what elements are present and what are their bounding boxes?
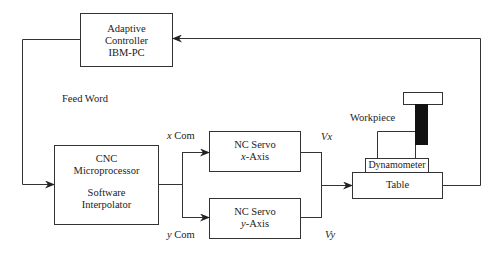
servo-x-line-1: NC Servo [209, 139, 301, 151]
adaptive-line-2: Controller [80, 35, 173, 47]
adaptive-line-3: IBM-PC [80, 47, 173, 59]
cnc-line-3: Software [54, 187, 159, 199]
servo-x-axis-suffix: -Axis [246, 151, 269, 162]
servo-y-axis-suffix: -Axis [246, 218, 269, 229]
adaptive-controller-label: Adaptive Controller IBM-PC [80, 23, 173, 59]
servo-x-label: NC Servo x-Axis [209, 139, 301, 163]
y-com-label: y Com [167, 229, 195, 241]
workpiece-frame [378, 132, 416, 159]
cnc-line-2: Microprocessor [54, 165, 159, 177]
vx-label: Vx [321, 131, 332, 143]
cnc-line-1: CNC [54, 153, 159, 165]
servo-y-line-1: NC Servo [209, 206, 301, 218]
feed-word-label: Feed Word [62, 93, 108, 105]
dynamometer-label: Dynamometer [365, 159, 429, 171]
x-com-text: Com [174, 130, 194, 141]
vy-label: Vy [325, 229, 335, 241]
adaptive-line-1: Adaptive [80, 23, 173, 35]
servo-y-label: NC Servo y-Axis [209, 206, 301, 230]
y-com-text: Com [174, 229, 194, 240]
workpiece-label: Workpiece [350, 112, 395, 124]
cnc-line-4: Interpolator [54, 199, 159, 211]
servo-y-line-2: y-Axis [209, 218, 301, 230]
cnc-label: CNC Microprocessor Software Interpolator [54, 153, 159, 211]
tool-holder [404, 93, 443, 105]
table-label: Table [352, 179, 443, 191]
y-var: y [167, 229, 172, 240]
x-var: x [167, 130, 172, 141]
tool-icon [415, 104, 428, 145]
x-com-label: x Com [167, 130, 195, 142]
servo-x-line-2: x-Axis [209, 151, 301, 163]
